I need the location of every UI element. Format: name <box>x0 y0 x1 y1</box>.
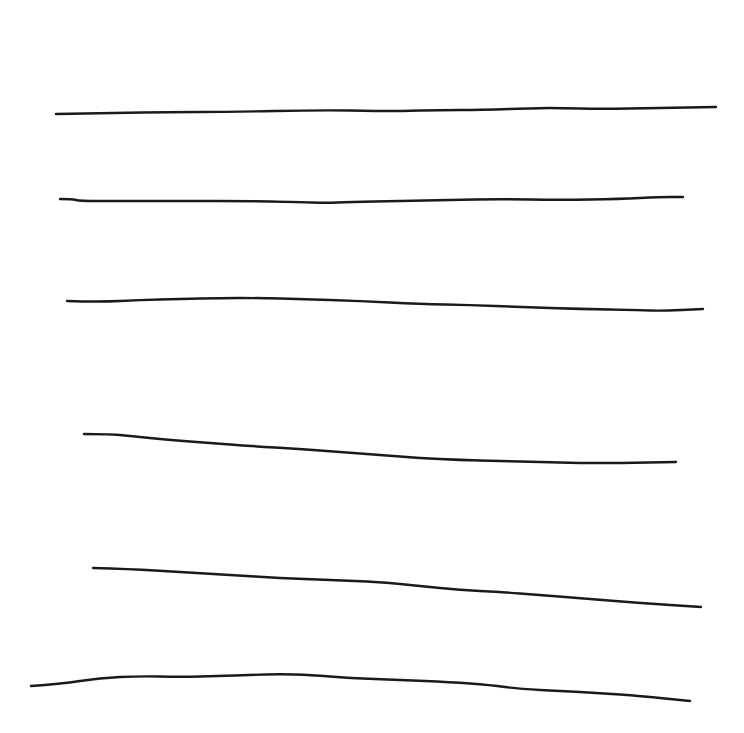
drawing-canvas <box>0 0 744 733</box>
